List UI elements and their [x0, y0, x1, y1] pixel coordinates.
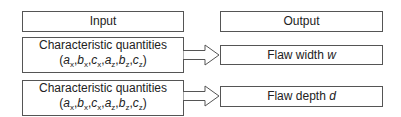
input-vars-1: (ax,bx,cx,az,bz,cz) — [59, 53, 146, 72]
input-header-label: Input — [90, 14, 117, 29]
output-header-box: Output — [220, 11, 383, 32]
input-box-2: Characteristic quantities (ax,bx,cx,az,b… — [22, 80, 184, 116]
input-box-1: Characteristic quantities (ax,bx,cx,az,b… — [22, 37, 184, 73]
input-title-2: Characteristic quantities — [39, 81, 167, 96]
arrow-right-icon — [183, 44, 223, 66]
input-title-1: Characteristic quantities — [39, 38, 167, 53]
output-box-1: Flaw width w — [220, 45, 383, 65]
output-label-1: Flaw width w — [267, 48, 336, 63]
output-label-2: Flaw depth d — [267, 89, 336, 104]
output-header-label: Output — [283, 14, 319, 29]
input-header-box: Input — [22, 11, 184, 32]
arrow-right-icon — [183, 85, 223, 107]
input-vars-2: (ax,bx,cx,az,bz,cz) — [59, 96, 146, 115]
output-box-2: Flaw depth d — [220, 86, 383, 107]
